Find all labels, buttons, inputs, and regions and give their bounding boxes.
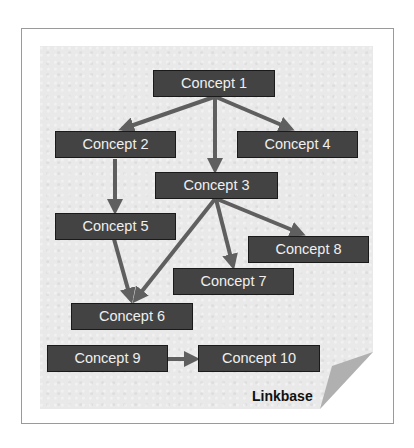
linkbase-caption: Linkbase bbox=[252, 388, 313, 404]
edge-c1-c2 bbox=[122, 97, 214, 129]
concept-10-node: Concept 10 bbox=[198, 345, 320, 372]
concept-1-node: Concept 1 bbox=[153, 70, 275, 97]
concept-8-node: Concept 8 bbox=[248, 236, 369, 263]
edge-c3-c7 bbox=[216, 199, 233, 266]
concept-7-node: Concept 7 bbox=[173, 268, 294, 295]
concept-6-node: Concept 6 bbox=[71, 303, 193, 330]
edge-c5-c6 bbox=[114, 239, 131, 300]
concept-9-node: Concept 9 bbox=[47, 345, 168, 372]
concept-5-node: Concept 5 bbox=[55, 213, 176, 240]
edge-c1-c4 bbox=[216, 97, 291, 129]
edge-c3-c8 bbox=[217, 199, 302, 234]
concept-3-node: Concept 3 bbox=[155, 172, 278, 199]
concept-2-node: Concept 2 bbox=[55, 131, 176, 158]
concept-4-node: Concept 4 bbox=[237, 131, 358, 158]
